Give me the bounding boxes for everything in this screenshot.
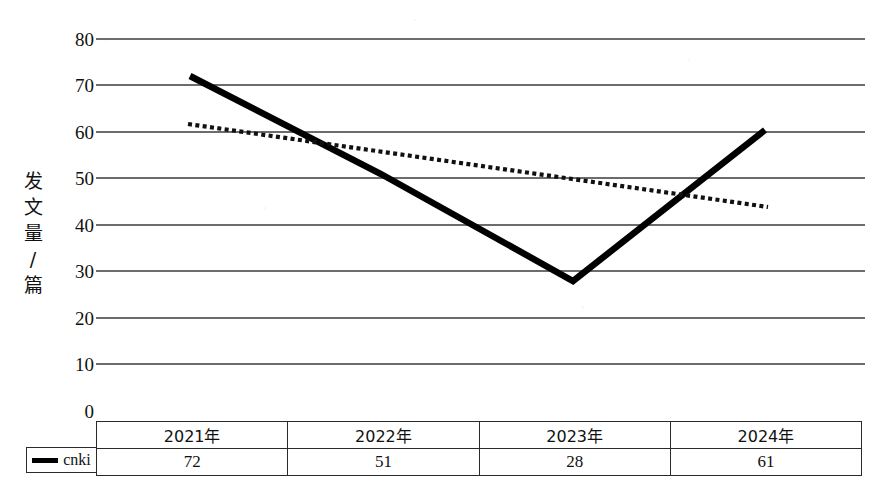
table-header-2023: 2023年 — [479, 422, 670, 449]
series-trendline — [188, 124, 768, 207]
table-row-cnki: 72 51 28 61 — [97, 449, 862, 476]
table-row-years: 2021年 2022年 2023年 2024年 — [97, 422, 862, 449]
legend-line-swatch-icon — [32, 458, 58, 463]
table-cell-2023-value: 28 — [479, 449, 670, 476]
legend-series-label: cnki — [63, 451, 91, 469]
chart-legend: cnki — [26, 447, 96, 473]
table-cell-2024-value: 61 — [670, 449, 861, 476]
table-cell-2021-value: 72 — [97, 449, 288, 476]
table-header-2021: 2021年 — [97, 422, 288, 449]
table-cell-2022-value: 51 — [288, 449, 479, 476]
chart-figure: 发 文 量 / 篇 80 70 60 50 40 30 20 10 0 cnki — [0, 0, 883, 496]
table-header-2024: 2024年 — [670, 422, 861, 449]
chart-data-table: 2021年 2022年 2023年 2024年 72 51 28 61 — [96, 421, 862, 476]
table-header-2022: 2022年 — [288, 422, 479, 449]
